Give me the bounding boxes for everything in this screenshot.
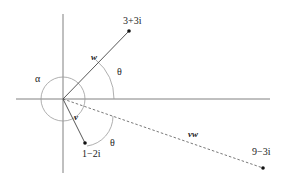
theta-upper-arc	[96, 60, 114, 99]
label-vector-vw: vw	[188, 129, 199, 139]
label-v-end: 1−2i	[82, 148, 101, 159]
label-w-end: 3+3i	[123, 15, 142, 26]
label-vector-v: v	[74, 112, 79, 122]
point-vw-end	[261, 166, 265, 170]
complex-plane-diagram: 3+3i 1−2i 9−3i w v vw α θ θ	[0, 0, 285, 179]
point-w-end	[127, 29, 131, 33]
label-vector-w: w	[91, 52, 98, 62]
label-vw-end: 9−3i	[252, 146, 271, 157]
label-alpha: α	[35, 73, 41, 84]
point-v-end	[83, 141, 87, 145]
vector-w	[63, 31, 129, 99]
label-theta-upper: θ	[117, 66, 122, 77]
label-theta-lower: θ	[110, 137, 115, 148]
